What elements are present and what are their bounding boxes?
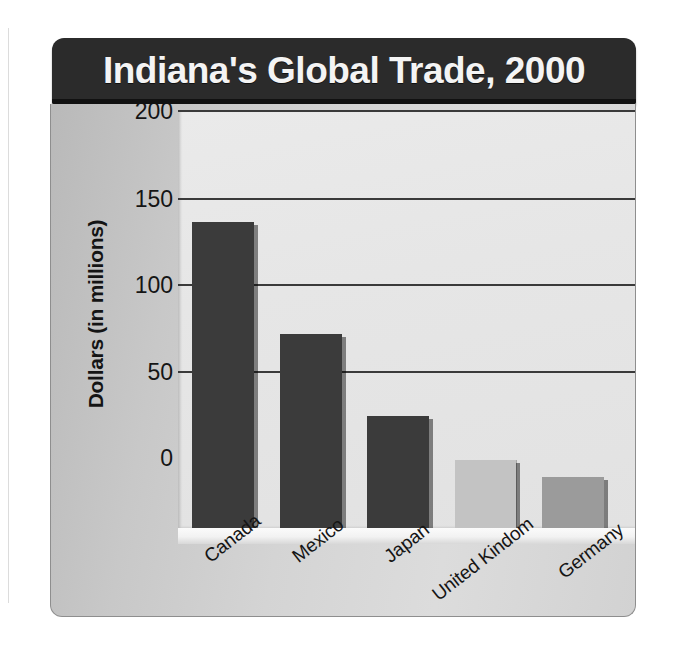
bar-slot-japan: [367, 110, 455, 528]
bar-mexico: [280, 334, 342, 528]
page-margin-rule: [8, 28, 9, 603]
chart-title: Indiana's Global Trade, 2000: [103, 50, 585, 92]
y-tick-label-150: 150: [113, 186, 173, 213]
bar-slot-united-kindom: [455, 110, 543, 528]
plot-area: [178, 110, 636, 528]
chart-title-banner: Indiana's Global Trade, 2000: [52, 38, 636, 104]
bar-series: [178, 110, 636, 528]
y-axis-tick-labels: 200 150 100 50 0: [51, 104, 173, 617]
bar-japan: [367, 416, 429, 528]
chart-body: Dollars (in millions) 200 150 100 50 0: [50, 104, 636, 617]
chart-figure: Indiana's Global Trade, 2000 Dollars (in…: [50, 38, 636, 617]
x-axis-tick-labels: Canada Mexico Japan United Kindom German…: [178, 544, 636, 616]
y-tick-label-50: 50: [113, 359, 173, 386]
bar-slot-canada: [192, 110, 280, 528]
bar-canada: [192, 222, 254, 528]
y-tick-label-200: 200: [113, 104, 173, 125]
y-tick-label-0: 0: [113, 445, 173, 472]
y-tick-label-100: 100: [113, 272, 173, 299]
bar-germany: [542, 477, 604, 528]
bar-slot-mexico: [280, 110, 368, 528]
bar-slot-germany: [542, 110, 630, 528]
bar-united-kindom: [455, 460, 517, 528]
